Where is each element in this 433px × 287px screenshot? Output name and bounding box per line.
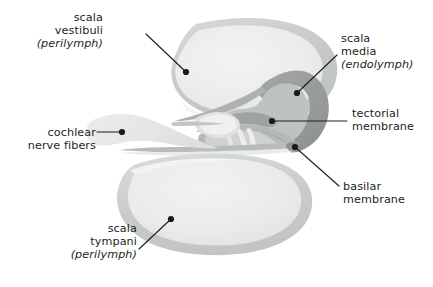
label-scala-vestibuli-line1: scala <box>37 11 103 24</box>
label-basilar-membrane: basilar membrane <box>343 180 405 206</box>
cochlea-cross-section-figure: scala vestibuli (perilymph) cochlear ner… <box>0 0 433 287</box>
label-tectorial-membrane-line2: membrane <box>352 120 414 133</box>
label-scala-vestibuli: scala vestibuli (perilymph) <box>37 11 103 51</box>
label-scala-tympani: scala tympani (perilymph) <box>71 222 137 262</box>
label-scala-tympani-line2: tympani <box>71 235 137 248</box>
label-basilar-membrane-line2: membrane <box>343 193 405 206</box>
label-basilar-membrane-line1: basilar <box>343 180 405 193</box>
dot-scala-media <box>294 90 300 96</box>
dot-tectorial-membrane <box>269 118 275 124</box>
label-tectorial-membrane-line1: tectorial <box>352 107 414 120</box>
scala-tympani-group <box>117 154 312 256</box>
label-cochlear-nerve-fibers: cochlear nerve fibers <box>28 126 96 152</box>
label-scala-tympani-line3: (perilymph) <box>71 248 137 261</box>
label-scala-media: scala media (endolymph) <box>341 32 414 72</box>
label-scala-media-line2: media <box>341 45 414 58</box>
label-scala-vestibuli-line3: (perilymph) <box>37 37 103 50</box>
label-scala-media-line3: (endolymph) <box>341 58 414 71</box>
dot-cochlear-nerve-fibers <box>119 129 125 135</box>
label-cochlear-nerve-fibers-line2: nerve fibers <box>28 139 96 152</box>
label-cochlear-nerve-fibers-line1: cochlear <box>28 126 96 139</box>
dot-scala-vestibuli <box>183 69 189 75</box>
label-scala-media-line1: scala <box>341 32 414 45</box>
scala-tympani-lumen <box>128 158 301 246</box>
label-tectorial-membrane: tectorial membrane <box>352 107 414 133</box>
label-scala-tympani-line1: scala <box>71 222 137 235</box>
dot-basilar-membrane <box>292 144 298 150</box>
dot-scala-tympani <box>168 216 174 222</box>
label-scala-vestibuli-line2: vestibuli <box>37 24 103 37</box>
